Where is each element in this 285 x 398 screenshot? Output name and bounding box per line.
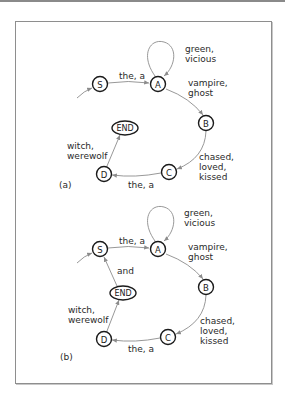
svg-text:B: B (203, 283, 209, 293)
edge-a-self-loop (148, 206, 174, 241)
label-b-c-2: loved, (199, 162, 226, 172)
node-s: S (93, 242, 108, 257)
svg-text:A: A (155, 80, 161, 90)
edge-a-self-loop (148, 41, 174, 76)
label-a-loop-2: vicious (184, 218, 215, 228)
label-d-end-2: werewolf (67, 151, 108, 161)
label-d-end-1: witch, (68, 305, 95, 315)
label-b-c-3: kissed (199, 172, 227, 182)
node-d: D (97, 332, 112, 347)
svg-text:D: D (101, 335, 108, 345)
node-b: B (199, 116, 214, 131)
svg-text:B: B (203, 119, 209, 129)
svg-text:S: S (97, 245, 102, 255)
label-a-b-1: vampire, (188, 78, 228, 88)
svg-text:S: S (97, 80, 102, 90)
label-b-c-1: chased, (200, 316, 235, 326)
label-a-loop-1: green, (185, 44, 214, 54)
label-s-a: the, a (119, 236, 145, 246)
label-a-b-1: vampire, (188, 242, 228, 252)
label-d-end-1: witch, (67, 141, 94, 151)
edge-end-to-s (104, 257, 117, 286)
label-b-c-2: loved, (200, 326, 227, 336)
label-a-b-2: ghost (188, 252, 214, 262)
state-diagram-figure: S A B C D END the, a green, vicious vamp… (0, 0, 285, 398)
node-c: C (162, 165, 177, 180)
label-c-d: the, a (128, 344, 154, 354)
node-end: END (112, 121, 138, 135)
svg-text:C: C (166, 168, 172, 178)
label-a-b-2: ghost (188, 88, 214, 98)
panel-a: S A B C D END the, a green, vicious vamp… (59, 41, 234, 190)
edge-d-to-end (107, 135, 120, 166)
edge-start-to-s (77, 88, 92, 98)
panel-b: S A B C D END the, a green, vicious vamp… (60, 206, 235, 362)
node-d: D (97, 167, 112, 182)
edge-start-to-s (77, 253, 92, 263)
svg-text:END: END (114, 289, 131, 298)
svg-text:END: END (116, 124, 133, 133)
label-a-loop-1: green, (184, 208, 213, 218)
panel-label-b: (b) (60, 352, 73, 362)
svg-text:C: C (165, 333, 171, 343)
label-b-c-1: chased, (199, 152, 234, 162)
label-a-loop-2: vicious (185, 54, 216, 64)
label-b-c-3: kissed (200, 336, 228, 346)
svg-text:D: D (101, 170, 108, 180)
svg-text:A: A (155, 245, 161, 255)
node-b: B (199, 280, 214, 295)
edge-c-to-d (112, 173, 161, 176)
label-end-s: and (117, 266, 134, 276)
label-s-a: the, a (119, 71, 145, 81)
node-a: A (151, 242, 166, 257)
edge-s-to-a (108, 82, 149, 84)
node-a: A (151, 77, 166, 92)
edge-s-to-a (108, 247, 149, 249)
node-end: END (110, 286, 136, 300)
edge-d-to-end (107, 300, 119, 331)
edge-c-to-d (112, 338, 160, 341)
node-s: S (93, 77, 108, 92)
label-d-end-2: werewolf (68, 315, 109, 325)
node-c: C (161, 330, 176, 345)
label-c-d: the, a (128, 180, 154, 190)
panel-label-a: (a) (59, 180, 72, 190)
